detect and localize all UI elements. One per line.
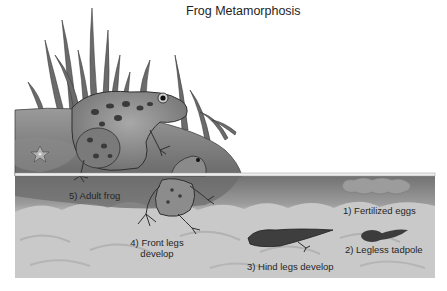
stage-4-label: 4) Front legs develop [122, 237, 192, 259]
water-surface [15, 173, 435, 176]
stage-3-label: 3) Hind legs develop [247, 261, 334, 272]
egg-mass [342, 178, 410, 194]
stage-4-label-line1: 4) Front legs [122, 237, 192, 248]
diagram-title: Frog Metamorphosis [186, 4, 301, 18]
stage-1-label: 1) Fertilized eggs [343, 205, 416, 216]
stage-5-label: 5) Adult frog [69, 190, 120, 201]
stage-2-label: 2) Legless tadpole [345, 244, 423, 255]
stage-4-label-line2: develop [122, 248, 192, 259]
